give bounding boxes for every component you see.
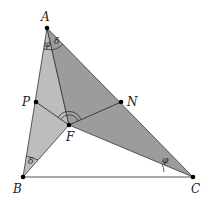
- point-P: [34, 100, 39, 105]
- point-N: [119, 100, 124, 105]
- angle-label-A-delta: δ: [54, 36, 59, 46]
- angle-label-A-phi: φ: [44, 39, 51, 49]
- label-C: C: [191, 182, 200, 196]
- geometry-diagram: A B C F P N φ δ δ φ: [0, 0, 212, 202]
- label-A: A: [40, 10, 50, 24]
- label-N: N: [126, 95, 138, 109]
- point-F: [67, 123, 72, 128]
- label-F: F: [65, 130, 75, 144]
- point-A: [45, 26, 50, 31]
- label-B: B: [12, 182, 22, 196]
- label-P: P: [21, 95, 31, 109]
- angle-arc-C: [162, 164, 164, 172]
- angle-label-B: δ: [28, 156, 33, 166]
- angle-label-C: φ: [162, 155, 169, 165]
- point-B: [21, 175, 26, 180]
- point-C: [191, 175, 196, 180]
